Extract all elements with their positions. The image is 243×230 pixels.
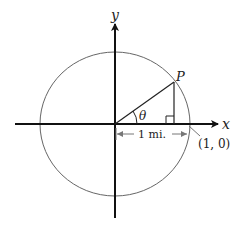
right-angle-marker — [166, 116, 174, 124]
y-axis-label: y — [110, 7, 120, 23]
theta-label: θ — [139, 109, 147, 123]
unit-circle-diagram: y x P θ 1 mi. (1, 0) — [0, 0, 243, 230]
intercept-label: (1, 0) — [198, 137, 230, 151]
point-p-label: P — [175, 69, 185, 84]
angle-arc — [133, 111, 137, 124]
distance-label: 1 mi. — [138, 128, 166, 141]
x-axis-label: x — [222, 116, 230, 132]
intercept-leader — [189, 126, 200, 136]
